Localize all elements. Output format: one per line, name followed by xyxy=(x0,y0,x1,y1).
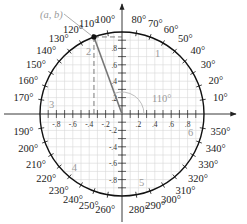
degree-label: 20° xyxy=(208,75,223,86)
y-tick-label: .6 xyxy=(111,61,117,70)
degree-label: 220° xyxy=(36,173,56,184)
degree-label: 70° xyxy=(148,18,163,29)
x-tick-label: -.8 xyxy=(52,120,60,129)
x-tick-label: .6 xyxy=(168,120,174,129)
degree-label: 350° xyxy=(210,126,230,137)
degree-label: 260° xyxy=(95,204,115,215)
angle-label: 110° xyxy=(152,93,172,104)
degree-tick xyxy=(107,30,108,36)
y-tick-label: -.4 xyxy=(109,143,117,152)
y-tick-label: .8 xyxy=(111,44,117,53)
degree-label: 340° xyxy=(206,143,226,154)
y-tick-label: .4 xyxy=(111,77,117,86)
x-tick-label: -.4 xyxy=(85,120,93,129)
degree-tick xyxy=(38,99,44,100)
degree-label: 30° xyxy=(201,59,216,70)
point-a-b xyxy=(91,34,96,39)
marker-5: 5 xyxy=(139,177,144,188)
degree-label: 330° xyxy=(198,159,218,170)
x-tick-label: .4 xyxy=(152,120,158,129)
degree-label: 160° xyxy=(18,75,38,86)
degree-tick xyxy=(38,128,44,129)
degree-tick xyxy=(200,128,206,129)
degree-tick xyxy=(136,192,137,198)
y-tick-label: -.2 xyxy=(109,126,117,135)
unit-circle-diagram: -.8-.6-.4-.2.2.4.6.8.8.6.4.2-.2-.4-.6-.8… xyxy=(0,0,247,224)
degree-label: 140° xyxy=(36,45,56,56)
x-tick-label: .2 xyxy=(136,120,142,129)
degree-tick xyxy=(200,99,206,100)
marker-6: 6 xyxy=(188,127,193,138)
degree-label: 40° xyxy=(191,45,206,56)
degree-tick xyxy=(136,30,137,36)
degree-label: 190° xyxy=(14,126,34,137)
degree-label: 150° xyxy=(26,59,46,70)
degree-tick xyxy=(107,192,108,198)
degree-label: 200° xyxy=(18,143,38,154)
degree-label: 170° xyxy=(14,92,34,103)
degree-label: 210° xyxy=(26,159,46,170)
degree-label: 310° xyxy=(175,185,195,196)
angle-arc xyxy=(114,92,144,114)
degree-label: 320° xyxy=(188,173,208,184)
marker-4: 4 xyxy=(72,162,78,173)
degree-label: 10° xyxy=(213,92,228,103)
marker-2: 2 xyxy=(86,46,91,57)
point-label: (a, b) xyxy=(40,9,63,21)
y-tick-label: -.8 xyxy=(109,176,117,185)
degree-label: 60° xyxy=(164,24,179,35)
y-tick-label: -.6 xyxy=(109,159,117,168)
x-tick-label: -.6 xyxy=(69,120,77,129)
marker-3: 3 xyxy=(49,99,54,110)
degree-label: 130° xyxy=(49,33,69,44)
degree-label: 300° xyxy=(161,194,181,205)
degree-label: 50° xyxy=(178,33,193,44)
marker-1: 1 xyxy=(155,48,160,59)
degree-label: 80° xyxy=(131,14,146,25)
